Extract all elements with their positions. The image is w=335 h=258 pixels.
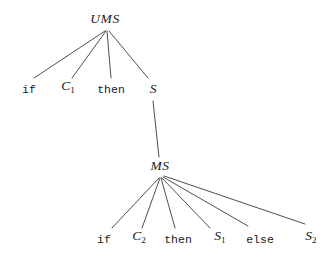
tree-edge-ms-c2	[142, 178, 160, 228]
tree-edges-layer	[0, 0, 335, 258]
tree-edge-ums-s	[109, 31, 148, 78]
node-c2-subscript: 2	[141, 235, 146, 245]
tree-edge-s-ms	[153, 101, 159, 157]
node-s2: S2	[305, 229, 316, 245]
node-c2: C2	[132, 229, 146, 245]
node-c2-symbol: C	[132, 228, 141, 243]
tree-edge-ms-then	[161, 178, 175, 228]
tree-edge-ums-if	[34, 31, 105, 78]
node-ums: UMS	[90, 12, 120, 26]
node-c1-symbol: C	[61, 78, 70, 93]
node-then-1: then	[97, 84, 125, 96]
node-s1: S1	[214, 229, 225, 245]
node-s2-subscript: 2	[312, 235, 317, 245]
tree-edge-ms-else	[163, 177, 248, 226]
tree-edge-ums-c1	[72, 31, 106, 78]
node-s: S	[150, 82, 157, 96]
node-s1-symbol: S	[214, 228, 221, 243]
node-if-2: if	[97, 234, 111, 246]
tree-edge-ms-if	[112, 178, 159, 228]
node-then-2: then	[164, 234, 192, 246]
node-c1: C1	[61, 79, 75, 95]
tree-edge-ms-s2	[164, 176, 305, 224]
node-s2-symbol: S	[305, 228, 312, 243]
node-else: else	[246, 234, 274, 246]
node-c1-subscript: 1	[70, 85, 75, 95]
tree-edge-ms-s1	[162, 178, 210, 228]
parse-tree-figure: UMS if C1 then S MS if C2 then S1 else S…	[0, 0, 335, 258]
node-ms: MS	[150, 159, 169, 173]
node-if-1: if	[22, 84, 36, 96]
node-s1-subscript: 1	[221, 235, 226, 245]
tree-edge-ums-then	[107, 31, 111, 78]
